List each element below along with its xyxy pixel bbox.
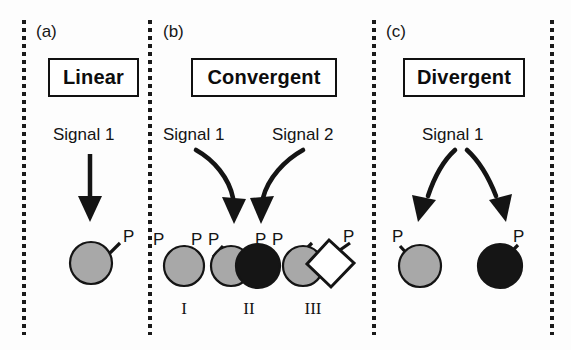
protein-diamond-white-b-iii	[307, 240, 354, 287]
panel-letter-a: (a)	[36, 22, 57, 42]
panel-letter-b: (b)	[163, 22, 184, 42]
phosphate-label-b-6: P	[343, 228, 354, 245]
title-label-linear: Linear	[63, 66, 124, 89]
panel-letter-c: (c)	[386, 22, 406, 42]
signal-label-a-1: Signal 1	[53, 125, 114, 145]
phosphate-label-c-2: P	[513, 228, 524, 245]
arrow-c-left	[412, 150, 455, 222]
molecule-b-group-iii	[283, 240, 354, 287]
signal-label-b-1: Signal 1	[163, 125, 224, 145]
title-label-divergent: Divergent	[417, 66, 511, 89]
protein-circle-gray-b-iii	[283, 246, 323, 286]
phosphate-stalk-c-1	[400, 246, 409, 256]
panel-divider-left	[22, 20, 26, 335]
panel-divider-a-b	[148, 20, 152, 335]
title-box-linear: Linear	[48, 58, 139, 97]
molecule-b-group-ii	[211, 244, 280, 288]
phosphate-stalk-b-i-1	[176, 246, 186, 257]
molecule-b-group-i	[164, 246, 204, 286]
phosphate-label-c-1: P	[392, 228, 403, 245]
arrow-b-signal1	[196, 150, 246, 224]
title-box-convergent: Convergent	[191, 58, 337, 97]
phosphate-stalk-b-iii-1	[303, 243, 312, 252]
phosphate-label-b-1: P	[153, 231, 164, 248]
protein-circle-gray-b-ii	[211, 246, 251, 286]
phosphate-label-b-3: P	[208, 231, 219, 248]
protein-circle-black-b-ii	[236, 244, 280, 288]
signal-label-c-1: Signal 1	[422, 125, 483, 145]
title-box-divergent: Divergent	[403, 58, 525, 97]
molecule-a-1	[70, 242, 120, 284]
group-label-iii: III	[300, 299, 326, 319]
phosphate-label-a-1: P	[123, 228, 134, 245]
protein-circle-black-c	[478, 244, 522, 288]
phosphate-label-b-2: P	[191, 231, 202, 248]
panel-divider-b-c	[372, 20, 376, 335]
phosphate-stalk-a-1	[107, 243, 120, 256]
title-label-convergent: Convergent	[207, 66, 320, 89]
arrow-b-signal2	[250, 150, 303, 224]
phosphate-label-b-4: P	[255, 231, 266, 248]
phosphate-label-b-5: P	[272, 231, 283, 248]
signal-label-b-2: Signal 2	[272, 125, 333, 145]
diagram-vector-layer	[0, 0, 571, 350]
protein-circle-gray-b-i	[164, 246, 204, 286]
molecule-c-1	[399, 245, 441, 287]
panel-divider-right	[550, 20, 554, 335]
group-label-i: I	[174, 299, 194, 319]
phosphate-stalk-c-2	[508, 245, 518, 255]
protein-circle-gray-c	[399, 245, 441, 287]
group-label-ii: II	[238, 299, 260, 319]
arrow-c-right	[467, 150, 512, 222]
protein-circle-gray-a	[70, 242, 112, 284]
molecule-c-2	[478, 244, 522, 288]
figure-canvas: (a) (b) (c) Linear Convergent Divergent …	[0, 0, 571, 350]
arrow-a-signal1	[78, 154, 102, 222]
